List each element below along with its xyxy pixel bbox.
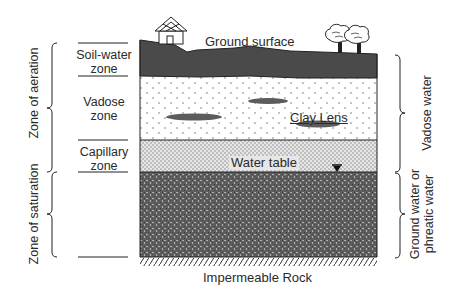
saturation-brace: [47, 172, 57, 257]
soil-water-zone-label: Soil-water zone: [76, 48, 132, 76]
clay-lens-label: Clay Lens: [290, 111, 348, 125]
vadose-water-brace: [395, 55, 405, 172]
house-icon: [155, 17, 187, 44]
impermeable-rock-label: Impermeable Rock: [203, 271, 312, 285]
clay-lens: [248, 98, 288, 104]
vadose-zone-label: Vadose zone: [76, 95, 132, 123]
impermeable-rock-layer: [140, 258, 377, 266]
ground-water-label: Ground water or phreatic water: [408, 164, 436, 264]
water-table-label: Water table: [229, 156, 299, 170]
vadose-water-label: Vadose water: [420, 68, 434, 158]
vadose-zone-layer: [140, 76, 377, 140]
ground-surface-label: Ground surface: [205, 35, 295, 49]
clay-lens: [166, 114, 222, 121]
ground-water-brace: [395, 173, 405, 258]
capillary-zone-label: Capillary zone: [76, 145, 132, 173]
zone-of-saturation-label: Zone of saturation: [27, 154, 41, 274]
saturated-zone-layer: [140, 172, 377, 257]
zone-of-aeration-label: Zone of aeration: [27, 38, 41, 148]
aeration-brace: [47, 43, 57, 172]
